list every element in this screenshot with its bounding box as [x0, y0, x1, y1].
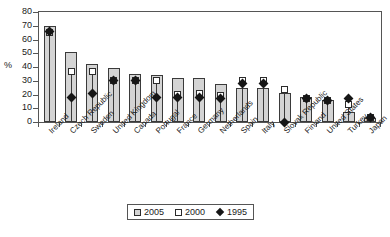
grey-square-icon: [134, 209, 141, 216]
y-tick-label: 0: [14, 117, 32, 126]
y-tick-label: 40: [14, 62, 32, 71]
legend-label-2000: 2000: [185, 207, 205, 217]
y-tick-mark: [33, 108, 38, 109]
white-square-icon: [175, 209, 182, 216]
y-tick-80: 80: [12, 7, 32, 16]
bar-group: [44, 12, 56, 122]
y-tick-40: 40: [12, 62, 32, 71]
y-tick-20: 20: [12, 90, 32, 99]
y-tick-0: 0: [12, 117, 32, 126]
y-tick-10: 10: [12, 103, 32, 112]
legend-item-2000: 2000: [175, 207, 205, 217]
y-tick-50: 50: [12, 48, 32, 57]
bar-group: [65, 12, 77, 122]
y-tick-label: 70: [14, 21, 32, 30]
bar-group: [257, 12, 269, 122]
y-tick-mark: [33, 95, 38, 96]
chart-figure: % 01020304050607080 IrelandCzech Republi…: [0, 0, 390, 237]
bar-group: [193, 12, 205, 122]
chart-legend: 2005 2000 1995: [127, 204, 254, 220]
bar-group: [322, 12, 334, 122]
y-tick-mark: [33, 81, 38, 82]
y-tick-label: 20: [14, 90, 32, 99]
y-tick-mark: [33, 26, 38, 27]
bar-group: [151, 12, 163, 122]
legend-label-2005: 2005: [144, 207, 164, 217]
legend-item-1995: 1995: [216, 207, 247, 217]
x-axis-category-labels: IrelandCzech RepublicSwedenUnited Kingdo…: [0, 127, 390, 189]
y-tick-mark: [33, 67, 38, 68]
bar-group: [108, 12, 120, 122]
y-tick-label: 50: [14, 48, 32, 57]
y-tick-30: 30: [12, 76, 32, 85]
y-tick-label: 10: [14, 103, 32, 112]
y-tick-mark: [33, 53, 38, 54]
y-tick-60: 60: [12, 35, 32, 44]
legend-label-1995: 1995: [227, 207, 247, 217]
bar-group: [215, 12, 227, 122]
y-tick-label: 60: [14, 35, 32, 44]
marker-2000: [153, 77, 160, 84]
bar-group: [279, 12, 291, 122]
marker-2000: [281, 86, 288, 93]
marker-2000: [68, 68, 75, 75]
y-tick-70: 70: [12, 21, 32, 30]
bar-group: [172, 12, 184, 122]
y-tick-label: 80: [14, 7, 32, 16]
y-tick-mark: [33, 40, 38, 41]
black-diamond-icon: [216, 208, 224, 216]
y-tick-label: 30: [14, 76, 32, 85]
bar-group: [364, 12, 376, 122]
y-tick-mark: [33, 12, 38, 13]
marker-2000: [89, 68, 96, 75]
y-axis-label: %: [4, 60, 12, 70]
marker-drop-line: [49, 31, 50, 122]
legend-item-2005: 2005: [134, 207, 164, 217]
